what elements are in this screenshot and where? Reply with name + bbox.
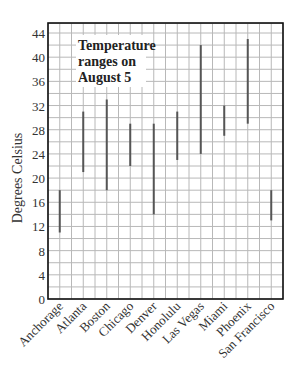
y-tick-label: 32 [32, 99, 45, 114]
x-axis-labels: AnchorageAtlantaBostonChicagoDenverHonol… [15, 298, 277, 361]
y-tick-label: 36 [32, 74, 46, 89]
y-axis-ticks: 048121620242832364044 [32, 26, 46, 307]
y-tick-label: 8 [39, 244, 46, 259]
y-tick-label: 0 [39, 292, 46, 307]
y-tick-label: 40 [32, 50, 45, 65]
annotation-box: Temperatureranges onAugust 5 [76, 35, 156, 87]
y-tick-label: 20 [32, 171, 45, 186]
annotation-line: Temperature [78, 38, 156, 53]
y-tick-label: 44 [32, 26, 46, 41]
y-tick-label: 24 [32, 147, 46, 162]
y-axis-label: Degrees Celsius [10, 133, 25, 224]
y-tick-label: 16 [32, 195, 46, 210]
y-tick-label: 28 [32, 123, 45, 138]
y-tick-label: 4 [39, 268, 46, 283]
annotation-line: August 5 [78, 70, 131, 85]
temperature-range-chart: Temperatureranges onAugust 5 04812162024… [0, 0, 301, 376]
y-tick-label: 12 [32, 219, 45, 234]
annotation-line: ranges on [78, 54, 136, 69]
